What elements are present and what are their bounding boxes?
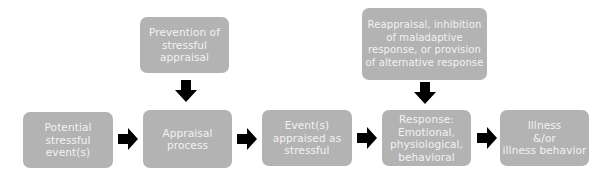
node-prevention: Prevention of stressful appraisal — [140, 17, 229, 73]
arrow-down-icon — [414, 82, 436, 104]
node-illness: Illness &/or illness behavior — [500, 110, 589, 166]
node-response: Response: Emotional, physiological, beha… — [382, 110, 471, 166]
arrow-right-icon — [357, 127, 377, 149]
node-events-appraised-stressful: Event(s) appraised as stressful — [262, 110, 352, 166]
arrow-right-icon — [118, 128, 138, 150]
arrow-right-icon — [477, 127, 497, 149]
arrow-right-icon — [237, 128, 257, 150]
arrow-down-icon — [175, 80, 197, 102]
node-potential-stressful-events: Potential stressful event(s) — [23, 112, 113, 168]
node-appraisal-process: Appraisal process — [143, 110, 232, 168]
node-reappraisal: Reappraisal, inhibition of maladaptive r… — [362, 8, 487, 80]
